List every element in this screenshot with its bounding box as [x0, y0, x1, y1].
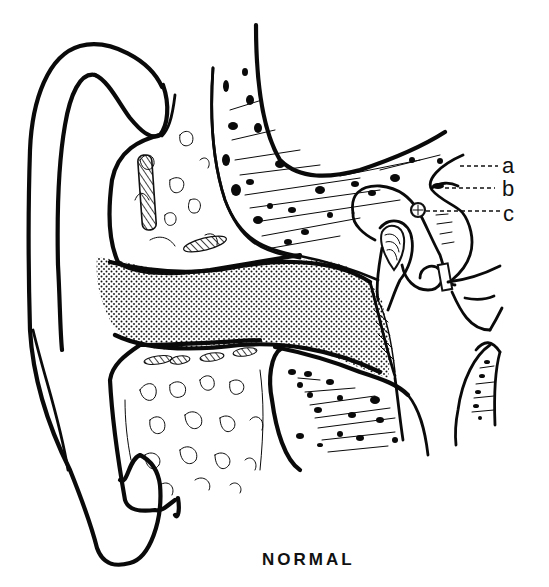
eustachian-tube — [455, 343, 500, 445]
label-b: b — [502, 176, 514, 201]
label-c: c — [503, 201, 514, 226]
lower-temporal-bone — [270, 347, 428, 470]
lower-air-cells — [110, 340, 263, 516]
upper-air-cells — [110, 68, 300, 273]
ear-cross-section-figure: a b c — [0, 0, 549, 587]
upper-temporal-bone — [212, 25, 445, 280]
label-a: a — [502, 153, 515, 178]
figure-caption: NORMAL — [262, 550, 355, 569]
ear-canal — [97, 257, 390, 378]
